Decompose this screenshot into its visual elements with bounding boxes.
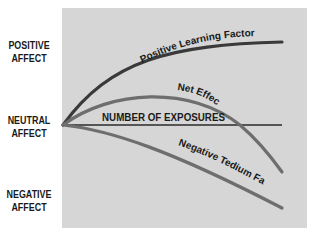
chart-canvas: Positive Learning Factor Net Effect Nega… [0,0,324,243]
x-axis-label: NUMBER OF EXPOSURES [102,112,225,123]
